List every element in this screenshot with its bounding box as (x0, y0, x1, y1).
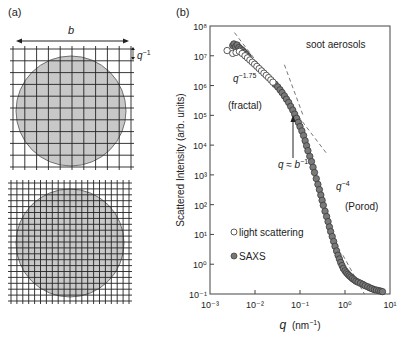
data-point (379, 288, 385, 294)
series-light-scattering (224, 47, 276, 85)
y-axis-label: Scattered Intensity (arb. units) (175, 93, 186, 226)
svg-text:10¹: 10¹ (194, 230, 207, 240)
svg-text:10⁶: 10⁶ (193, 82, 207, 92)
svg-text:q−1: q−1 (137, 49, 151, 61)
fractal-slope-annotation: q−1.75 (233, 72, 256, 84)
svg-text:10²: 10² (194, 201, 207, 211)
filled-circle-icon (231, 253, 237, 259)
fractal-regime-annotation: (fractal) (228, 100, 262, 111)
fine-grid-sphere (8, 180, 132, 304)
panel-a: (a) b q−1 (8, 6, 151, 304)
legend: light scattering SAXS (231, 227, 303, 262)
data-point (311, 169, 317, 175)
svg-text:10⁵: 10⁵ (193, 111, 207, 121)
porod-regime-annotation: (Porod) (345, 201, 378, 212)
svg-text:10⁻¹: 10⁻¹ (189, 290, 207, 300)
crossover-arrow (291, 115, 296, 158)
dimension-arrow: b (16, 24, 129, 44)
svg-text:10⁷: 10⁷ (194, 52, 207, 62)
data-point (270, 79, 276, 85)
sample-annotation: soot aerosols (306, 39, 365, 50)
svg-text:10⁻²: 10⁻² (246, 300, 264, 310)
svg-text:10⁰: 10⁰ (338, 300, 352, 310)
svg-text:10⁸: 10⁸ (193, 22, 207, 32)
svg-text:10⁻¹: 10⁻¹ (291, 300, 309, 310)
legend-item-light-scattering: light scattering (231, 227, 303, 238)
porod-slope-annotation: q−4 (336, 180, 350, 192)
svg-text:light scattering: light scattering (239, 227, 303, 238)
svg-text:10⁴: 10⁴ (193, 141, 207, 151)
crossover-annotation: q ≈ b−1 (278, 158, 308, 170)
dimension-label-b: b (68, 24, 74, 36)
grid-spacing-exponent: −1 (143, 49, 151, 56)
coarse-grid (10, 46, 134, 170)
open-circle-icon (231, 229, 237, 235)
panel-b-label: (b) (176, 6, 189, 18)
svg-text:10¹: 10¹ (383, 300, 396, 310)
x-axis-label: q (nm−1) (279, 318, 320, 332)
panel-a-label: (a) (8, 6, 21, 18)
svg-text:10⁻³: 10⁻³ (201, 300, 219, 310)
svg-text:10⁰: 10⁰ (193, 260, 207, 270)
figure: (a) b q−1 (b) 10⁻¹10⁰10¹10²10 (0, 0, 401, 338)
coarse-grid-sphere (10, 46, 134, 170)
legend-item-saxs: SAXS (231, 251, 266, 262)
panel-b: (b) 10⁻¹10⁰10¹10²10³10⁴10⁵10⁶10⁷10⁸ 10⁻³… (175, 6, 397, 332)
fine-grid (8, 180, 132, 304)
data-point (320, 202, 326, 208)
svg-text:SAXS: SAXS (239, 251, 266, 262)
svg-text:10³: 10³ (194, 171, 207, 181)
x-axis-ticks: 10⁻³10⁻²10⁻¹10⁰10¹ (201, 290, 397, 310)
